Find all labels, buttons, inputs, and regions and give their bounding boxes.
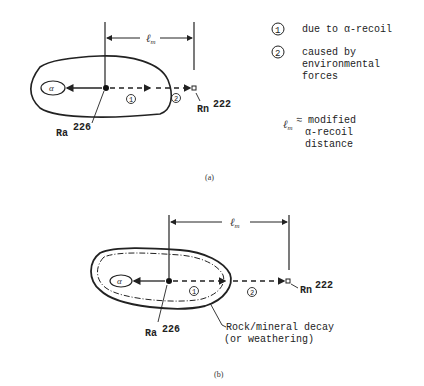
svg-text:226: 226 [73,122,91,133]
legend: 1 due to α-recoil 2 caused by environmen… [272,23,392,150]
svg-text:226: 226 [162,324,180,335]
svg-text:forces: forces [302,71,338,82]
svg-text:(or weathering): (or weathering) [224,334,314,345]
rn-atom [286,279,290,283]
svg-text:environmental: environmental [302,59,380,70]
svg-text:α: α [49,83,54,93]
svg-text:1: 1 [129,96,133,104]
svg-text:222: 222 [213,99,231,110]
ra-atom [103,85,109,91]
svg-text:caused by: caused by [302,47,356,58]
svg-text:2: 2 [275,49,280,59]
svg-text:ℓm: ℓm [230,216,240,230]
svg-text:Ra: Ra [56,128,68,139]
svg-text:ℓm: ℓm [146,32,156,46]
svg-text:1: 1 [192,288,196,296]
radon-recoil-diagram: ℓm α 1 2 Ra 226 Rn 222 (a) 1 due to α-re… [0,0,424,386]
svg-text:2: 2 [174,95,178,103]
svg-text:α-recoil: α-recoil [305,127,353,138]
grain-outline [91,248,231,308]
svg-text:Rn: Rn [197,104,209,115]
svg-text:Rn: Rn [300,285,312,296]
svg-text:(b): (b) [214,370,224,379]
panel-b: ℓm α 1 2 Ra 226 Rn 222 Rock/mineral deca… [91,215,334,379]
svg-text:222: 222 [315,280,333,291]
svg-text:Rock/mineral decay: Rock/mineral decay [226,322,334,333]
rn-atom [192,86,196,90]
panel-a: ℓm α 1 2 Ra 226 Rn 222 (a) [31,22,231,182]
svg-text:2: 2 [250,289,254,297]
svg-text:due to α-recoil: due to α-recoil [302,24,392,35]
svg-text:1: 1 [275,26,280,36]
svg-text:≈ modified: ≈ modified [296,115,356,126]
svg-text:Ra: Ra [145,328,157,339]
ra-atom [166,278,172,284]
svg-text:α: α [117,276,122,286]
svg-text:ℓm: ℓm [283,118,293,132]
svg-text:distance: distance [305,139,353,150]
svg-text:(a): (a) [205,173,214,182]
